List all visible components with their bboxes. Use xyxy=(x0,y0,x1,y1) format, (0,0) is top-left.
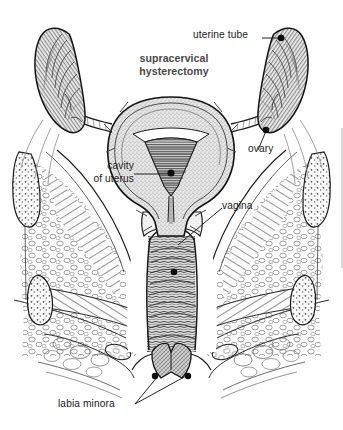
label-ovary: ovary xyxy=(248,143,273,154)
marker-labia-minora-right xyxy=(185,373,191,379)
marker-vagina xyxy=(171,269,178,276)
label-cavity-of-uterus-line2: of uterus xyxy=(76,173,134,184)
marker-cavity-of-uterus xyxy=(167,169,174,176)
anatomical-figure: supracervical hysterectomy uterine tube … xyxy=(0,0,343,430)
marker-labia-minora-left xyxy=(152,373,158,379)
label-uterine-tube: uterine tube xyxy=(193,29,248,40)
figure-title: supracervical hysterectomy xyxy=(124,52,224,78)
label-vagina: vagina xyxy=(222,200,253,211)
marker-uterine-tube xyxy=(278,35,285,42)
label-cavity-of-uterus-line1: cavity xyxy=(86,160,134,171)
marker-ovary xyxy=(263,127,270,134)
label-labia-minora: labia minora xyxy=(58,398,115,409)
